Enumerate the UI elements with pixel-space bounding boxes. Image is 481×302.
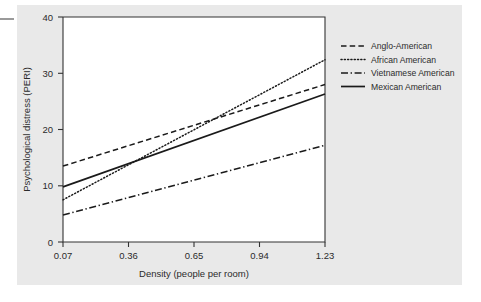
legend-label-mexican-american: Mexican American — [371, 82, 441, 92]
y-tick-label-30: 30 — [42, 68, 53, 79]
y-axis-ticks — [58, 17, 63, 242]
x-tick-label-0.36: 0.36 — [119, 250, 138, 261]
x-tick-label-0.07: 0.07 — [54, 250, 73, 261]
legend-label-vietnamese-american: Vietnamese American — [371, 68, 455, 78]
x-axis-ticks — [63, 242, 325, 247]
legend-item-african-american[interactable]: African American — [341, 55, 436, 65]
x-tick-label-0.94: 0.94 — [250, 250, 269, 261]
y-tick-label-20: 20 — [42, 124, 53, 135]
legend-item-mexican-american[interactable]: Mexican American — [341, 82, 441, 92]
x-axis-title: Density (people per room) — [139, 268, 249, 279]
legend-item-anglo-american[interactable]: Anglo-American — [341, 41, 432, 51]
legend-label-anglo-american: Anglo-American — [371, 41, 432, 51]
line-chart: 0 10 20 30 40 0.07 0.36 0.65 0.94 1.23 D… — [0, 0, 481, 302]
y-axis-title: Psychological distress (PERI) — [21, 67, 32, 192]
legend: Anglo-American African American Vietname… — [341, 41, 455, 92]
y-tick-label-10: 10 — [42, 180, 53, 191]
x-tick-label-1.23: 1.23 — [316, 250, 335, 261]
legend-label-african-american: African American — [371, 55, 436, 65]
x-tick-label-0.65: 0.65 — [185, 250, 204, 261]
y-tick-label-0: 0 — [48, 237, 53, 248]
chart-figure: 0 10 20 30 40 0.07 0.36 0.65 0.94 1.23 D… — [0, 0, 481, 302]
legend-item-vietnamese-american[interactable]: Vietnamese American — [341, 68, 455, 78]
y-tick-label-40: 40 — [42, 12, 53, 23]
